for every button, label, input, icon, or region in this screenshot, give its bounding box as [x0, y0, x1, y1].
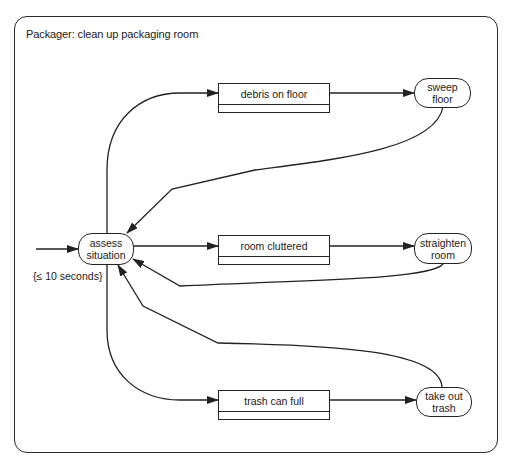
- condition-label: room cluttered: [219, 236, 329, 257]
- condition-debris-on-floor[interactable]: debris on floor: [218, 83, 330, 113]
- state-label-line2: situation: [86, 249, 125, 261]
- action-label-line2: floor: [427, 93, 457, 105]
- condition-label: debris on floor: [219, 84, 329, 105]
- action-label-line1: straighten: [420, 237, 466, 249]
- action-label-line1: take out: [425, 390, 462, 402]
- condition-label: trash can full: [219, 391, 329, 412]
- action-label-line1: sweep: [427, 81, 457, 93]
- action-take-out-trash[interactable]: take out trash: [416, 387, 472, 417]
- condition-room-cluttered[interactable]: room cluttered: [218, 235, 330, 265]
- action-label-line2: room: [420, 249, 466, 261]
- action-label-line2: trash: [425, 402, 462, 414]
- state-assess-situation[interactable]: assess situation: [78, 233, 134, 265]
- state-label-line1: assess: [86, 237, 125, 249]
- diagram-title: Packager: clean up packaging room: [26, 28, 198, 40]
- time-constraint: {≤ 10 seconds}: [33, 270, 102, 282]
- action-sweep-floor[interactable]: sweep floor: [414, 78, 471, 108]
- action-straighten-room[interactable]: straighten room: [414, 233, 472, 264]
- condition-trash-can-full[interactable]: trash can full: [218, 390, 330, 420]
